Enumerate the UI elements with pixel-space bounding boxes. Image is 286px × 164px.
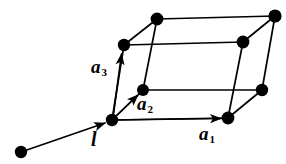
node-front-top-right bbox=[237, 36, 250, 49]
vector-label-a2: a2 bbox=[137, 94, 153, 115]
vector-a3-arrow bbox=[113, 54, 122, 118]
unit-cell-figure: a1 a2 a3 l bbox=[0, 0, 286, 164]
vector-label-l-base: l bbox=[91, 128, 97, 150]
vector-label-a1: a1 bbox=[199, 124, 215, 145]
node-cell-origin bbox=[106, 114, 118, 126]
vector-label-a1-base: a bbox=[199, 123, 209, 144]
node-front-bottom-right bbox=[222, 112, 235, 125]
vector-label-a3-base: a bbox=[91, 56, 101, 77]
node-back-top-right bbox=[268, 9, 281, 22]
vector-label-a2-sub: 2 bbox=[147, 103, 153, 115]
node-back-bottom-right bbox=[256, 84, 268, 96]
lattice-nodes bbox=[15, 9, 282, 158]
vector-label-a2-base: a bbox=[137, 93, 147, 114]
edge-back-left bbox=[143, 19, 157, 90]
vector-label-a1-sub: 1 bbox=[209, 133, 215, 145]
node-back-top-left bbox=[151, 13, 164, 26]
edge-front-top bbox=[124, 42, 243, 45]
node-front-top-left bbox=[118, 39, 130, 51]
vector-label-a3: a3 bbox=[91, 57, 107, 78]
edge-back-right bbox=[262, 16, 275, 90]
vector-label-a3-sub: 3 bbox=[101, 66, 107, 78]
node-external-origin bbox=[15, 146, 27, 158]
lattice-diagram bbox=[0, 0, 286, 164]
edge-back-top bbox=[157, 16, 275, 19]
vector-a1-arrow bbox=[112, 119, 221, 121]
vector-label-l: l bbox=[91, 129, 97, 149]
